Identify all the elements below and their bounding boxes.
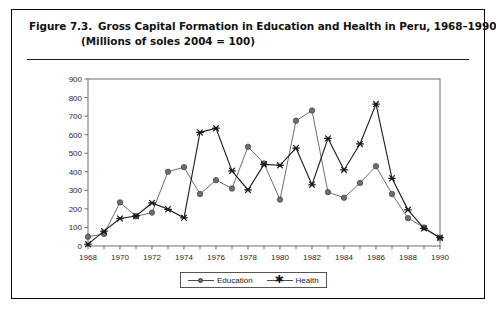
data-point-education-1986 [373, 164, 378, 169]
legend-label-health: Health [296, 276, 319, 285]
x-axis-tick-label: 1974 [175, 253, 193, 262]
legend-label-education: Education [217, 276, 253, 285]
y-axis-tick-label: 700 [69, 112, 83, 121]
data-point-education-1982 [309, 108, 314, 113]
line-chart-plot: 0100200300400500600700800900196819701972… [0, 0, 496, 310]
x-axis-tick-label: 1990 [431, 253, 449, 262]
x-axis-tick-label: 1978 [239, 253, 257, 262]
circle-marker-icon [188, 275, 214, 285]
data-point-health-1985 [357, 141, 364, 146]
x-axis-tick-label: 1970 [111, 253, 129, 262]
data-point-education-1976 [213, 177, 218, 182]
asterisk-marker-icon: ✱ [267, 275, 293, 285]
data-point-health-1983 [325, 136, 332, 141]
data-point-education-1974 [181, 164, 186, 169]
legend-item-education: Education [188, 275, 253, 285]
y-axis-tick-label: 800 [69, 94, 83, 103]
y-axis-tick-label: 100 [69, 223, 83, 232]
data-point-health-1980 [277, 163, 284, 168]
x-axis-tick-label: 1986 [367, 253, 385, 262]
data-point-education-1981 [293, 118, 298, 123]
data-point-education-1980 [277, 197, 282, 202]
data-point-health-1977 [229, 168, 236, 173]
data-point-health-1970 [117, 216, 124, 221]
y-axis-tick-label: 600 [69, 131, 83, 140]
x-axis-tick-label: 1976 [207, 253, 225, 262]
data-point-education-1968 [85, 234, 90, 239]
y-axis-tick-label: 0 [78, 242, 83, 251]
series-line-education [88, 111, 440, 238]
series-health [85, 101, 444, 246]
data-point-education-1988 [405, 215, 410, 220]
x-axis-tick-label: 1972 [143, 253, 161, 262]
x-axis-tick-label: 1988 [399, 253, 417, 262]
data-point-education-1984 [341, 195, 346, 200]
data-point-education-1978 [245, 144, 250, 149]
y-axis-tick-label: 400 [69, 168, 83, 177]
data-point-health-1984 [341, 167, 348, 172]
y-axis-tick-label: 500 [69, 149, 83, 158]
chart-legend: Education ✱ Health [180, 272, 327, 288]
x-axis-tick-label: 1982 [303, 253, 321, 262]
series-line-health [88, 104, 440, 244]
data-point-education-1975 [197, 191, 202, 196]
figure-container: Figure 7.3. Gross Capital Formation in E… [0, 0, 496, 310]
data-point-health-1988 [405, 207, 412, 212]
data-point-education-1985 [357, 180, 362, 185]
x-axis-tick-label: 1984 [335, 253, 353, 262]
data-point-education-1987 [389, 191, 394, 196]
data-point-health-1981 [293, 145, 300, 150]
data-point-education-1972 [149, 210, 154, 215]
data-point-health-1976 [213, 126, 220, 131]
y-axis-tick-label: 300 [69, 186, 83, 195]
data-point-health-1978 [245, 187, 252, 192]
data-point-education-1970 [117, 200, 122, 205]
data-point-education-1973 [165, 169, 170, 174]
x-axis-tick-label: 1980 [271, 253, 289, 262]
y-axis-tick-label: 200 [69, 205, 83, 214]
data-point-health-1972 [149, 200, 156, 205]
data-point-education-1977 [229, 186, 234, 191]
data-point-health-1982 [309, 182, 316, 187]
y-axis-tick-label: 900 [69, 75, 83, 84]
x-axis-tick-label: 1968 [79, 253, 97, 262]
series-education [85, 108, 442, 241]
data-point-education-1983 [325, 189, 330, 194]
legend-item-health: ✱ Health [267, 275, 319, 285]
data-point-health-1973 [165, 207, 172, 212]
